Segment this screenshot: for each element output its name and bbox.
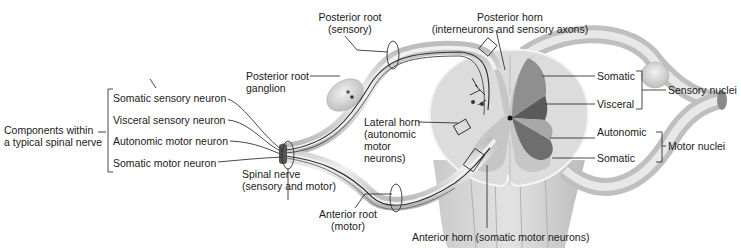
sensory-visceral-label: Visceral bbox=[597, 98, 634, 110]
anterior-horn-label: Anterior horn (somatic motor neurons) bbox=[412, 231, 589, 243]
spinal-nerve-diagram: Components within a typical spinal nerve… bbox=[0, 0, 741, 248]
motor-nuclei-label: Motor nuclei bbox=[668, 140, 725, 152]
sensory-somatic-label: Somatic bbox=[597, 70, 635, 82]
motor-somatic-label: Somatic bbox=[597, 152, 635, 164]
somatic-sensory-neuron-label: Somatic sensory neuron bbox=[113, 92, 226, 104]
sensory-nuclei-label: Sensory nuclei bbox=[668, 84, 737, 96]
components-group-label: Components within a typical spinal nerve bbox=[4, 124, 102, 148]
spinal-nerve-label: Spinal nerve (sensory and motor) bbox=[242, 168, 336, 192]
posterior-root-label: Posterior root (sensory) bbox=[312, 11, 388, 35]
spinal-cord-cross-section bbox=[430, 50, 588, 186]
somatic-motor-neuron-label: Somatic motor neuron bbox=[113, 157, 216, 169]
posterior-root-ganglion-label: Posterior root ganglion bbox=[246, 70, 309, 94]
visceral-sensory-neuron-label: Visceral sensory neuron bbox=[113, 114, 225, 126]
lateral-horn-label: Lateral horn (autonomic motor neurons) bbox=[364, 116, 420, 164]
anterior-root-label: Anterior root (motor) bbox=[312, 208, 384, 232]
autonomic-motor-neuron-label: Autonomic motor neuron bbox=[113, 135, 228, 147]
posterior-horn-label: Posterior horn (interneurons and sensory… bbox=[425, 11, 595, 35]
motor-autonomic-label: Autonomic bbox=[597, 126, 647, 138]
